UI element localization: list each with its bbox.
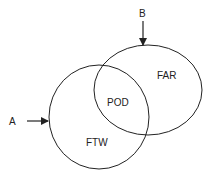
label-far: FAR xyxy=(157,70,176,81)
right-circle xyxy=(94,45,202,135)
label-b: B xyxy=(139,8,146,19)
label-pod: POD xyxy=(107,97,129,108)
label-a: A xyxy=(9,116,16,127)
label-ftw: FTW xyxy=(86,137,108,148)
venn-diagram: A B FAR POD FTW xyxy=(0,0,211,178)
left-circle xyxy=(49,65,149,169)
